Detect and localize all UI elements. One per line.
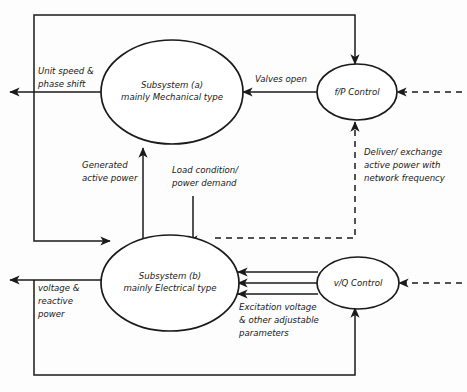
label-load-condition-line1: Load condition/ (172, 165, 239, 175)
label-excitation-line3: parameters (238, 328, 289, 338)
label-generated-active-power-line1: Generated (82, 160, 128, 170)
label-generated-active-power-line2: active power (82, 173, 138, 183)
label-deliver-exchange-line1: Deliver/ exchange (364, 147, 442, 157)
label-unit-speed-line1: Unit speed & (38, 66, 94, 76)
node-subsystem-a-sublabel: mainly Mechanical type (121, 92, 223, 102)
node-subsystem-b-label: Subsystem (b) (139, 271, 201, 281)
label-valves-open: Valves open (255, 74, 307, 84)
label-unit-speed-line2: phase shift (37, 79, 86, 89)
label-load-condition-line2: power demand (171, 178, 237, 188)
label-voltage-reactive-line3: power (37, 309, 65, 319)
label-deliver-exchange-line3: network frequency (364, 173, 446, 183)
label-excitation-line1: Excitation voltage (239, 302, 317, 312)
label-deliver-exchange-line2: active power with (364, 160, 440, 170)
block-diagram: Subsystem (a) mainly Mechanical type Sub… (0, 0, 467, 392)
diagram-canvas: Subsystem (a) mainly Mechanical type Sub… (0, 0, 467, 392)
node-vq-control-label: v/Q Control (334, 278, 383, 288)
label-voltage-reactive-line2: reactive (38, 296, 73, 306)
node-fp-control-label: f/P Control (334, 87, 380, 97)
node-subsystem-b-sublabel: mainly Electrical type (123, 283, 216, 293)
node-subsystem-a-label: Subsystem (a) (141, 80, 203, 90)
label-voltage-reactive-line1: voltage & (38, 283, 80, 293)
label-excitation-line2: & other adjustable (239, 315, 319, 325)
